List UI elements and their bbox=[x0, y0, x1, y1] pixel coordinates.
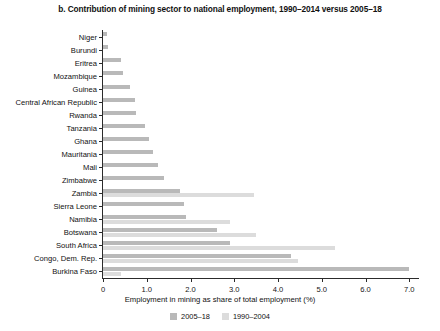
category-label: Tanzania bbox=[67, 123, 97, 132]
bar-1990-2004 bbox=[103, 246, 335, 250]
bar-2005-18 bbox=[103, 163, 158, 167]
legend-label: 2005–18 bbox=[181, 312, 210, 321]
plot-area: 01.02.03.04.05.06.07.0 NigerBurundiEritr… bbox=[103, 30, 418, 278]
category-label: Congo, Dem. Rep. bbox=[34, 254, 97, 263]
category-row: Mauritania bbox=[103, 147, 418, 160]
category-label: Botswana bbox=[64, 228, 97, 237]
bar-2005-18 bbox=[103, 254, 291, 258]
bar-2005-18 bbox=[103, 267, 409, 271]
category-row: Burundi bbox=[103, 43, 418, 56]
x-tick-mark bbox=[103, 278, 104, 282]
y-tick-mark bbox=[99, 63, 103, 64]
category-row: Rwanda bbox=[103, 108, 418, 121]
y-tick-mark bbox=[99, 180, 103, 181]
y-tick-mark bbox=[99, 89, 103, 90]
x-tick-mark bbox=[147, 278, 148, 282]
category-row: Niger bbox=[103, 30, 418, 43]
category-row: Botswana bbox=[103, 226, 418, 239]
category-label: Sierra Leone bbox=[54, 202, 97, 211]
y-tick-mark bbox=[99, 128, 103, 129]
bar-1990-2004 bbox=[103, 259, 298, 263]
chart-title: b. Contribution of mining sector to nati… bbox=[0, 4, 440, 14]
category-label: Burundi bbox=[71, 45, 97, 54]
bar-2005-18 bbox=[103, 176, 164, 180]
category-row: Mali bbox=[103, 161, 418, 174]
category-label: Guinea bbox=[73, 84, 98, 93]
category-label: Niger bbox=[79, 32, 97, 41]
category-label: Zimbabwe bbox=[62, 176, 97, 185]
x-tick-mark bbox=[234, 278, 235, 282]
bar-2005-18 bbox=[103, 58, 121, 62]
x-tick-label: 1.0 bbox=[141, 285, 152, 294]
category-row: Congo, Dem. Rep. bbox=[103, 252, 418, 265]
category-row: Ghana bbox=[103, 134, 418, 147]
category-label: South Africa bbox=[56, 241, 97, 250]
category-row: Sierra Leone bbox=[103, 200, 418, 213]
bar-2005-18 bbox=[103, 150, 153, 154]
bar-2005-18 bbox=[103, 85, 130, 89]
category-row: Mozambique bbox=[103, 69, 418, 82]
bar-2005-18 bbox=[103, 32, 107, 36]
bar-2005-18 bbox=[103, 137, 149, 141]
bar-2005-18 bbox=[103, 228, 217, 232]
x-tick-label: 4.0 bbox=[273, 285, 284, 294]
legend-swatch bbox=[222, 313, 229, 320]
bar-1990-2004 bbox=[103, 272, 121, 276]
x-axis-title: Employment in mining as share of total e… bbox=[0, 295, 440, 304]
bar-2005-18 bbox=[103, 111, 136, 115]
bar-1990-2004 bbox=[103, 233, 256, 237]
x-tick-label: 3.0 bbox=[229, 285, 240, 294]
x-tick-label: 6.0 bbox=[360, 285, 371, 294]
chart-legend: 2005–181990–2004 bbox=[0, 312, 440, 321]
category-row: Guinea bbox=[103, 82, 418, 95]
x-tick-label: 7.0 bbox=[404, 285, 415, 294]
bar-2005-18 bbox=[103, 189, 180, 193]
category-label: Ghana bbox=[74, 136, 97, 145]
y-tick-mark bbox=[99, 115, 103, 116]
category-label: Mali bbox=[83, 163, 97, 172]
bar-1990-2004 bbox=[103, 193, 254, 197]
y-tick-mark bbox=[99, 141, 103, 142]
bar-2005-18 bbox=[103, 45, 108, 49]
y-tick-mark bbox=[99, 76, 103, 77]
x-tick-label: 2.0 bbox=[185, 285, 196, 294]
bar-2005-18 bbox=[103, 202, 184, 206]
category-label: Eritrea bbox=[75, 58, 97, 67]
x-tick-mark bbox=[191, 278, 192, 282]
bar-2005-18 bbox=[103, 98, 135, 102]
category-label: Zambia bbox=[72, 189, 97, 198]
x-tick-label: 5.0 bbox=[316, 285, 327, 294]
category-label: Central African Republic bbox=[16, 97, 97, 106]
y-tick-mark bbox=[99, 154, 103, 155]
category-row: Namibia bbox=[103, 213, 418, 226]
x-tick-label: 0 bbox=[101, 285, 105, 294]
x-tick-mark bbox=[366, 278, 367, 282]
chart-figure: b. Contribution of mining sector to nati… bbox=[0, 0, 440, 331]
category-label: Rwanda bbox=[69, 110, 97, 119]
bar-2005-18 bbox=[103, 241, 230, 245]
legend-swatch bbox=[170, 313, 177, 320]
category-row: Zambia bbox=[103, 187, 418, 200]
legend-item: 2005–18 bbox=[170, 312, 210, 321]
category-label: Mauritania bbox=[62, 149, 97, 158]
x-tick-mark bbox=[322, 278, 323, 282]
x-tick-mark bbox=[278, 278, 279, 282]
category-row: Tanzania bbox=[103, 121, 418, 134]
y-tick-mark bbox=[99, 37, 103, 38]
legend-item: 1990–2004 bbox=[222, 312, 270, 321]
category-row: Central African Republic bbox=[103, 95, 418, 108]
category-row: Eritrea bbox=[103, 56, 418, 69]
y-tick-mark bbox=[99, 167, 103, 168]
bar-2005-18 bbox=[103, 215, 186, 219]
bar-2005-18 bbox=[103, 71, 123, 75]
bar-1990-2004 bbox=[103, 220, 230, 224]
y-tick-mark bbox=[99, 206, 103, 207]
category-row: South Africa bbox=[103, 239, 418, 252]
x-tick-mark bbox=[409, 278, 410, 282]
y-tick-mark bbox=[99, 50, 103, 51]
legend-label: 1990–2004 bbox=[233, 312, 270, 321]
category-label: Mozambique bbox=[54, 71, 97, 80]
category-label: Namibia bbox=[69, 215, 97, 224]
bar-2005-18 bbox=[103, 124, 145, 128]
category-label: Burkina Faso bbox=[52, 267, 97, 276]
